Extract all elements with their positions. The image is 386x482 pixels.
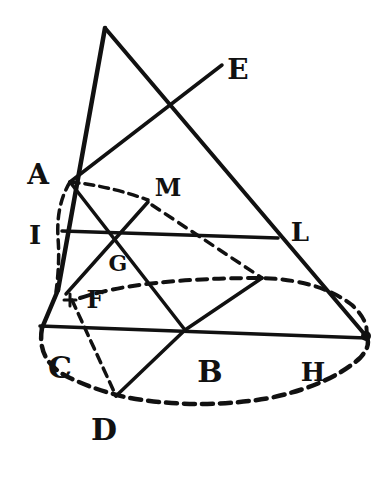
label-B: B <box>197 357 222 387</box>
line-A-E <box>70 65 222 182</box>
line-B-K <box>185 278 262 330</box>
line-M-F <box>66 202 148 294</box>
cone-diagram <box>0 0 386 482</box>
label-L: L <box>291 219 309 245</box>
label-E: E <box>227 56 248 84</box>
label-I: I <box>29 222 41 248</box>
label-C: C <box>48 353 72 383</box>
H-point <box>361 331 371 341</box>
label-H: H <box>301 359 326 385</box>
line-left-lower <box>42 290 58 328</box>
label-M: M <box>155 176 182 200</box>
label-F: F <box>86 288 103 312</box>
line-I-L <box>62 231 278 238</box>
label-D: D <box>91 415 117 445</box>
label-A: A <box>27 161 49 189</box>
label-G: G <box>109 252 128 274</box>
dashed-M-K <box>152 205 262 278</box>
line-B-D <box>116 330 185 396</box>
